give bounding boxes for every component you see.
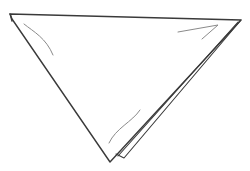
front-triangle-outline xyxy=(10,14,241,162)
crease-top-right xyxy=(178,25,218,39)
top-left-corner xyxy=(10,14,12,21)
crease-bottom xyxy=(109,110,140,143)
folded-triangle-drawing xyxy=(0,0,250,171)
crease-top-left xyxy=(24,24,53,55)
